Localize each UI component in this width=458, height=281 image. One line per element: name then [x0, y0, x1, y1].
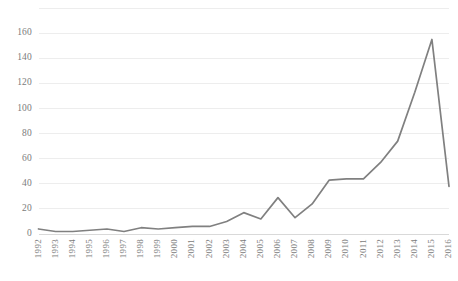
y-axis-tick-label: 60 — [6, 153, 32, 163]
x-axis-tick-label: 2009 — [324, 239, 333, 258]
x-axis-tick-label: 2000 — [170, 239, 179, 258]
x-axis-tick-label: 2004 — [239, 239, 248, 258]
data-series-line — [39, 39, 450, 231]
x-axis-tick-label: 2014 — [410, 239, 419, 258]
y-axis-tick-label: 100 — [6, 103, 32, 113]
y-axis-tick-label: 80 — [6, 128, 32, 138]
x-axis-tick-label: 1997 — [119, 239, 128, 258]
x-axis-tick-label: 2013 — [393, 239, 402, 258]
y-axis-tick-label: 160 — [6, 27, 32, 37]
x-axis-tick-label: 2007 — [290, 239, 299, 258]
x-axis-tick-label: 2002 — [205, 239, 214, 258]
x-axis-tick-label: 1995 — [85, 239, 94, 258]
x-axis-tick-label: 1992 — [34, 239, 43, 258]
x-axis-tick-label: 2008 — [307, 239, 316, 258]
y-axis-tick-label: 20 — [6, 203, 32, 213]
x-axis-tick-label: 2010 — [341, 239, 350, 258]
x-axis-tick-label: 2006 — [273, 239, 282, 258]
x-axis-tick-label: 1998 — [136, 239, 145, 258]
x-axis-tick-label: 2016 — [444, 239, 453, 258]
x-axis-tick-label: 1993 — [51, 239, 60, 258]
x-axis-tick-label: 2005 — [256, 239, 265, 258]
x-axis-tick-label: 1999 — [153, 239, 162, 258]
y-axis-tick-label: 0 — [6, 228, 32, 238]
y-axis-tick-label: 140 — [6, 52, 32, 62]
x-axis-tick-label: 2012 — [376, 239, 385, 258]
y-axis-tick-label: 120 — [6, 77, 32, 87]
x-axis-tick-label: 2001 — [187, 239, 196, 258]
x-axis-tick-label: 1996 — [102, 239, 111, 258]
x-axis-tick-label: 2003 — [222, 239, 231, 258]
line-chart-figure: 020406080100120140160 199219931994199519… — [0, 0, 458, 281]
x-axis-tick-label: 2011 — [359, 239, 368, 258]
x-axis-tick-label: 2015 — [427, 239, 436, 258]
y-axis-tick-label: 40 — [6, 178, 32, 188]
x-axis-tick-label: 1994 — [68, 239, 77, 258]
